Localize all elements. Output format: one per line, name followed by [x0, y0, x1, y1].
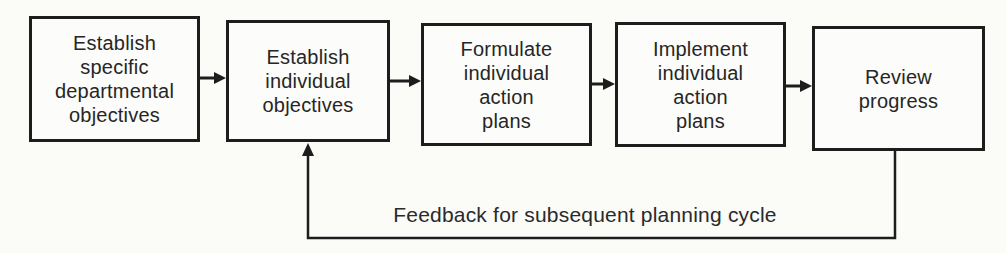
flow-box-review-progress: Review progress [812, 26, 985, 151]
arrowhead-right-icon [214, 72, 226, 84]
flow-box-implement-action-plans: Implement individual action plans [615, 22, 786, 147]
arrowhead-up-icon [302, 143, 314, 156]
arrowhead-right-icon [603, 78, 615, 90]
flowchart-canvas: Establish specific departmental objectiv… [0, 0, 1006, 253]
flow-box-establish-departmental-objectives: Establish specific departmental objectiv… [29, 16, 200, 142]
feedback-label: Feedback for subsequent planning cycle [335, 203, 835, 227]
arrow-box4-to-box5 [786, 80, 812, 92]
arrowhead-right-icon [800, 80, 812, 92]
arrow-box3-to-box4 [592, 78, 615, 90]
flow-box-formulate-action-plans: Formulate individual action plans [421, 23, 592, 146]
arrow-box2-to-box3 [390, 75, 421, 87]
flow-box-establish-individual-objectives: Establish individual objectives [226, 20, 390, 142]
arrowhead-right-icon [409, 75, 421, 87]
arrow-box1-to-box2 [200, 72, 226, 84]
